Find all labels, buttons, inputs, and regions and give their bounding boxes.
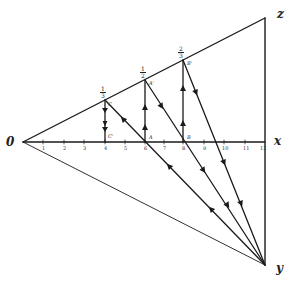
point-a-prime-label: A' [149,80,154,86]
vertex-o-label: 0 [6,136,14,148]
tick-3: 3 [83,145,86,151]
tick-5: 5 [124,145,127,151]
tick-9: 9 [203,145,206,151]
vertex-z-label: z [277,8,284,20]
fraction-one-third: 1 3 [100,86,106,99]
tick-4: 4 [104,145,107,151]
tick-1: 1 [42,145,45,151]
tick-11: 11 [243,145,249,151]
point-a-label: A [149,134,153,140]
fraction-two-thirds: 2 3 [178,46,184,59]
point-c-label: C [108,101,112,107]
line-oz [23,18,265,142]
tick-10: 10 [222,145,228,151]
tick-12: 12 [260,145,266,151]
point-b-prime-label: B' [187,60,192,66]
geometry-diagram [0,0,294,288]
vertex-y-label: y [276,262,283,274]
tick-7: 7 [163,145,166,151]
vertex-x-label: x [274,135,281,147]
point-c-prime-label: C' [108,133,113,139]
tick-8: 8 [182,145,185,151]
point-b-label: B [187,134,191,140]
fraction-one-half: 1 2 [140,66,146,79]
tick-2: 2 [63,145,66,151]
tick-6: 6 [144,145,147,151]
